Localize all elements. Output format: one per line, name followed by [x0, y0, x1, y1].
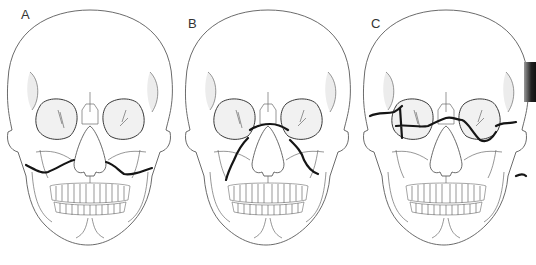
skull-c — [363, 10, 528, 245]
page-edge-shadow — [524, 62, 536, 102]
skull-a — [7, 10, 172, 245]
le-fort-fracture-figure: A B C — [0, 0, 536, 265]
skull-illustrations — [0, 0, 536, 265]
skull-b — [185, 10, 350, 245]
